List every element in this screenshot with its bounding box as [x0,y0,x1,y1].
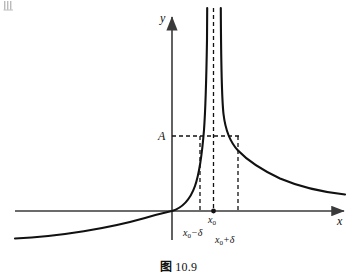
x0-minus-delta-sub: 0 [187,232,191,240]
curve-left-branch [15,8,207,239]
x0-label: x0 [208,215,216,225]
x0-label-sub: 0 [212,219,216,227]
x0-plus-delta-sub: 0 [219,239,223,247]
figure-caption-number: 10.9 [175,260,197,274]
curve-right-branch [221,8,345,195]
level-a-label: A [158,130,165,142]
x0-minus-delta-label: x0−δ [183,228,202,238]
figure-container: y x A x0 x0−δ x0+δ 图 10.9 [0,0,357,277]
figure-caption: 图 10.9 [0,257,357,275]
function-plot [0,0,357,277]
y-axis-label: y [160,12,165,24]
x0-minus-delta-rest: −δ [191,227,202,238]
x0-plus-delta-rest: +δ [223,234,234,245]
x0-plus-delta-label: x0+δ [215,235,234,245]
x-axis-label: x [337,215,342,227]
figure-caption-prefix: 图 [160,260,172,274]
x0-point-marker [211,209,216,214]
